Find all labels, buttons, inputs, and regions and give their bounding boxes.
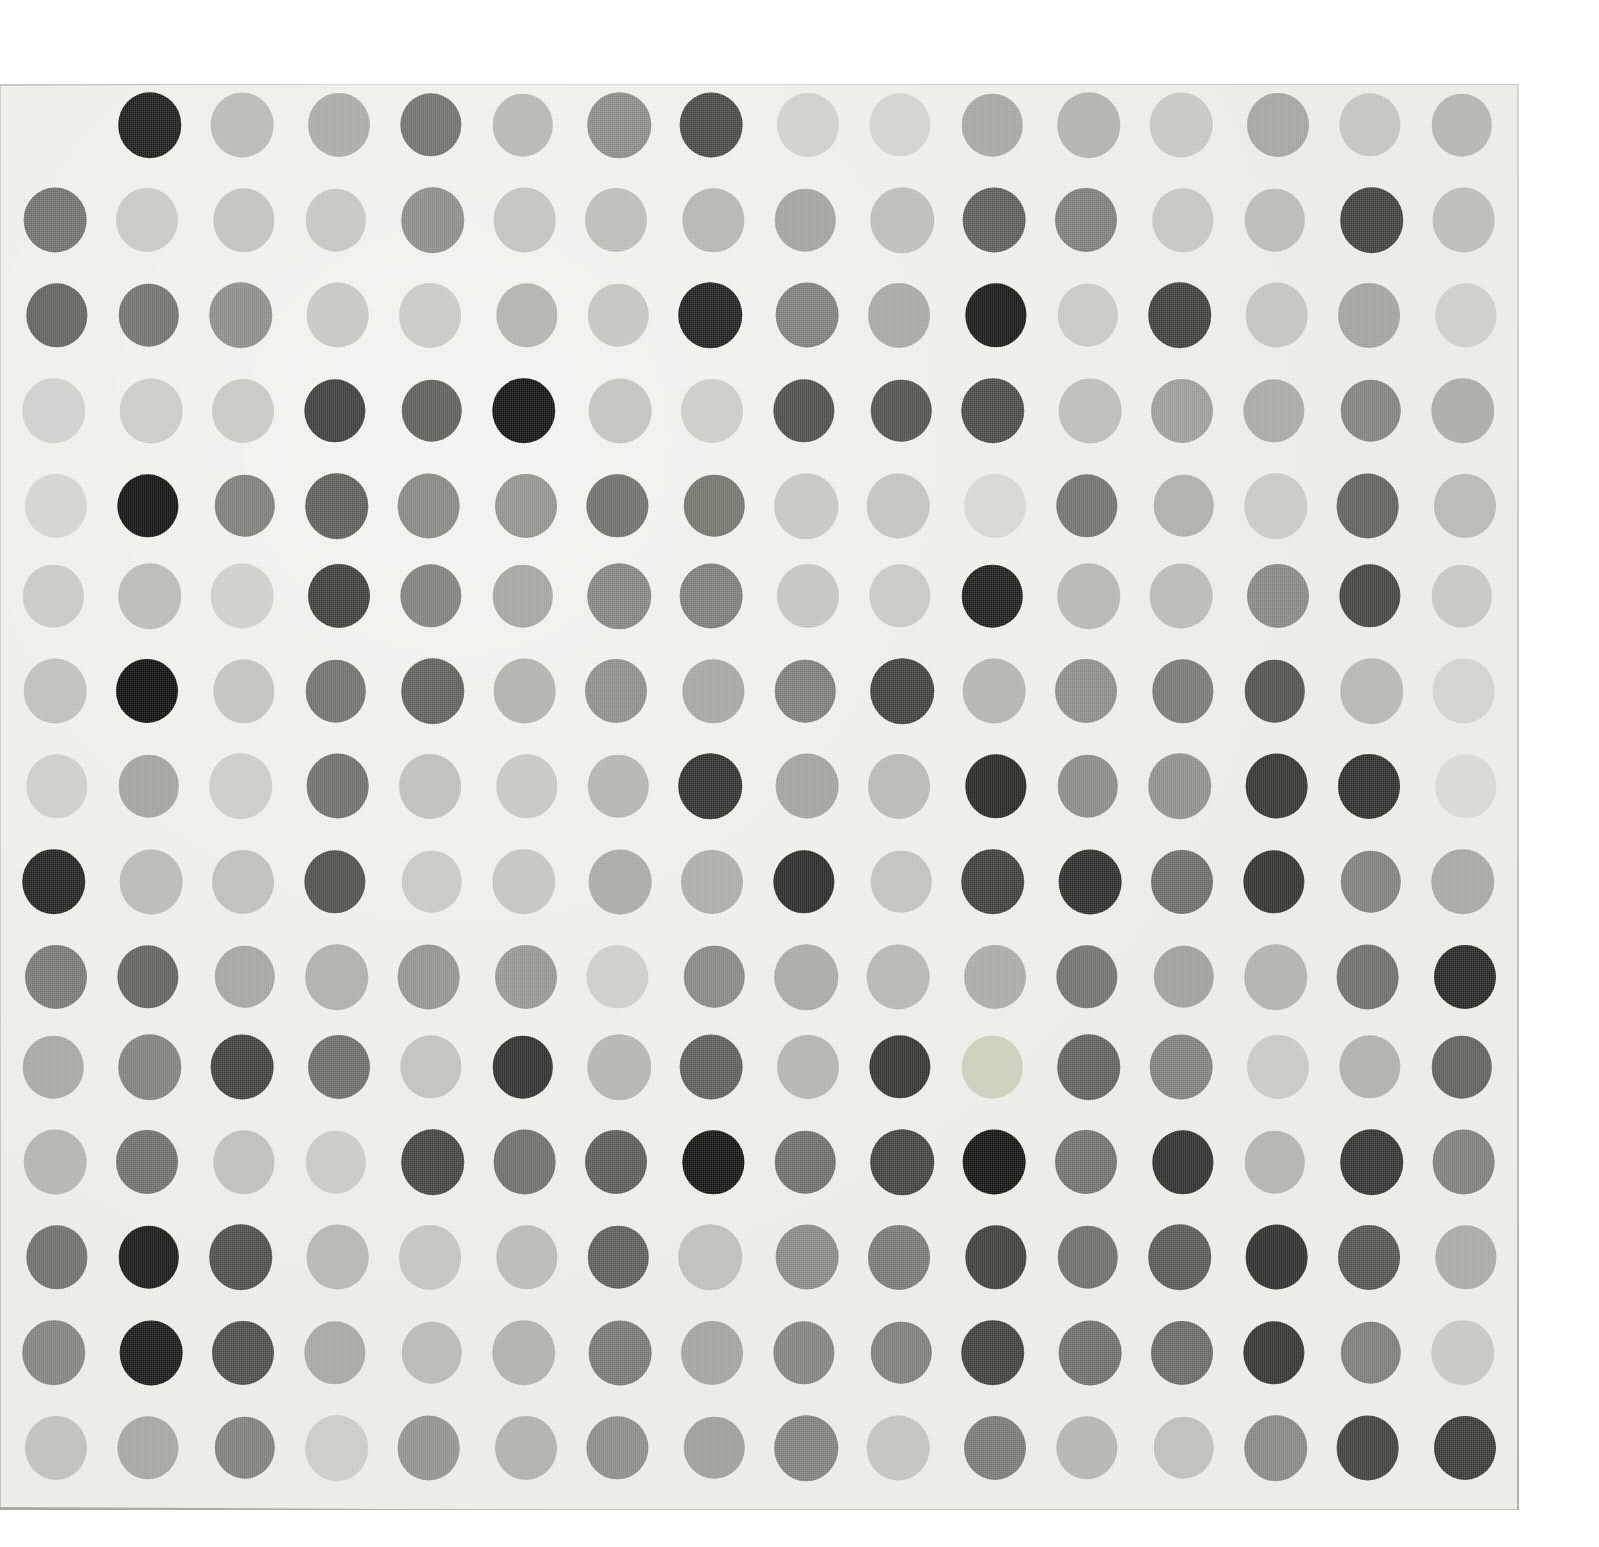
spot bbox=[868, 754, 930, 818]
spot bbox=[1434, 1416, 1496, 1480]
spot bbox=[1245, 1225, 1308, 1290]
spot bbox=[1247, 1035, 1309, 1099]
spot bbox=[777, 1035, 839, 1099]
spot bbox=[961, 378, 1024, 444]
spot bbox=[1340, 1321, 1401, 1384]
spot bbox=[870, 187, 933, 253]
spot bbox=[869, 93, 930, 156]
spot bbox=[492, 94, 553, 157]
spot bbox=[962, 94, 1023, 157]
spot bbox=[588, 1034, 651, 1100]
spot bbox=[1057, 92, 1120, 158]
spot bbox=[209, 283, 272, 349]
spot bbox=[964, 474, 1026, 538]
spot bbox=[1059, 849, 1122, 914]
spot bbox=[1058, 755, 1119, 818]
spot bbox=[399, 754, 461, 818]
spot bbox=[492, 378, 555, 444]
spot bbox=[681, 1321, 743, 1385]
spot bbox=[588, 284, 649, 347]
spot bbox=[213, 659, 274, 722]
spot bbox=[776, 754, 839, 819]
spot bbox=[120, 1320, 183, 1385]
spot bbox=[495, 474, 557, 538]
spot bbox=[1244, 473, 1307, 539]
spot bbox=[306, 1225, 369, 1290]
spot bbox=[777, 564, 839, 628]
spot bbox=[777, 93, 839, 157]
spot bbox=[397, 1415, 460, 1480]
spot bbox=[492, 565, 553, 628]
spot bbox=[1055, 659, 1117, 723]
spot bbox=[1244, 660, 1305, 723]
spot bbox=[1243, 1321, 1304, 1384]
spot bbox=[116, 188, 178, 252]
spot bbox=[26, 284, 87, 347]
spot bbox=[1340, 658, 1403, 724]
spot bbox=[1151, 850, 1213, 914]
spot bbox=[1247, 564, 1309, 628]
spot bbox=[118, 1034, 181, 1100]
spot bbox=[493, 659, 556, 724]
spot bbox=[1056, 1416, 1117, 1479]
spot bbox=[399, 1225, 461, 1289]
spot bbox=[1432, 1130, 1495, 1195]
spot bbox=[1244, 944, 1307, 1010]
spot bbox=[119, 1226, 180, 1289]
spot bbox=[492, 1036, 553, 1099]
spot bbox=[963, 1130, 1026, 1195]
spot bbox=[1431, 1036, 1492, 1099]
spot bbox=[776, 1225, 839, 1290]
spot bbox=[589, 849, 652, 914]
spot bbox=[1338, 754, 1400, 818]
spot bbox=[210, 93, 273, 158]
spot bbox=[212, 850, 274, 914]
spot bbox=[304, 850, 365, 913]
spot bbox=[24, 659, 87, 724]
spot bbox=[587, 474, 648, 537]
spot bbox=[118, 563, 181, 629]
spot bbox=[683, 188, 744, 251]
spot bbox=[1154, 1416, 1215, 1479]
spot bbox=[400, 93, 461, 156]
spot bbox=[1057, 1034, 1120, 1100]
spot bbox=[117, 945, 178, 1008]
artwork-page bbox=[0, 0, 1599, 1547]
spot bbox=[1432, 659, 1495, 724]
spot bbox=[871, 1321, 932, 1384]
spot bbox=[400, 564, 461, 627]
spot bbox=[1339, 564, 1400, 627]
painting-canvas bbox=[0, 84, 1519, 1510]
spot bbox=[963, 659, 1026, 724]
spot bbox=[22, 1320, 85, 1386]
spot bbox=[869, 1035, 930, 1098]
spot bbox=[1434, 945, 1496, 1009]
spot bbox=[25, 945, 87, 1009]
spot bbox=[305, 1415, 368, 1481]
spot bbox=[305, 189, 366, 252]
spot bbox=[1435, 755, 1496, 818]
spot bbox=[1339, 1035, 1400, 1098]
spot bbox=[585, 659, 647, 723]
spot bbox=[209, 754, 272, 820]
spot bbox=[117, 1416, 178, 1479]
spot bbox=[308, 564, 370, 628]
spot bbox=[306, 283, 369, 348]
spot bbox=[871, 379, 932, 442]
spot bbox=[401, 379, 462, 442]
spot bbox=[496, 284, 557, 347]
spot bbox=[962, 1036, 1023, 1099]
spot bbox=[26, 1226, 87, 1289]
spot bbox=[23, 565, 84, 628]
spot bbox=[774, 379, 835, 442]
spot bbox=[1338, 1225, 1400, 1289]
spot bbox=[120, 849, 183, 914]
spot bbox=[1435, 284, 1496, 347]
spot bbox=[867, 944, 930, 1009]
spot bbox=[116, 659, 178, 723]
spot bbox=[871, 850, 932, 913]
spot bbox=[1340, 850, 1401, 913]
spot bbox=[680, 93, 743, 158]
spot bbox=[1057, 563, 1120, 629]
spot bbox=[305, 944, 368, 1010]
